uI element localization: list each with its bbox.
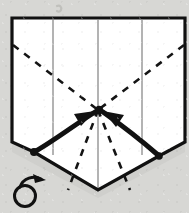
symbol-group [15,174,47,207]
turn-over-symbol-ring [15,186,36,207]
page-bleed-mark [57,6,61,12]
origami-diagram-canvas [0,0,189,213]
origami-diagram-svg [0,0,189,213]
point-right [155,152,163,160]
turn-over-symbol-head [33,174,46,183]
point-left [30,148,38,156]
page-bleed-mark-group [57,6,61,12]
point-center [95,106,103,114]
